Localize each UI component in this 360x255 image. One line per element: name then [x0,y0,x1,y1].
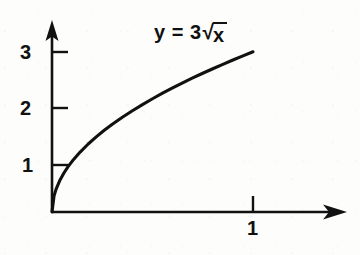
y-axis-tick-label-2: 2 [20,98,31,118]
x-axis-tick-label-1: 1 [247,218,258,238]
equation-annotation: y = 3 √ x [154,22,227,45]
radical-sign-icon: √ [203,21,215,42]
math-figure-square-root-graph: 3 2 1 1 y = 3 √ x [0,0,360,255]
radicand-x: x [213,22,227,45]
radical-group: √ x [203,22,228,45]
y-axis-tick-label-1: 1 [22,155,33,175]
equation-left-hand-side: y = 3 [154,22,202,42]
y-axis-tick-label-3: 3 [20,42,31,62]
function-curve [52,52,253,212]
